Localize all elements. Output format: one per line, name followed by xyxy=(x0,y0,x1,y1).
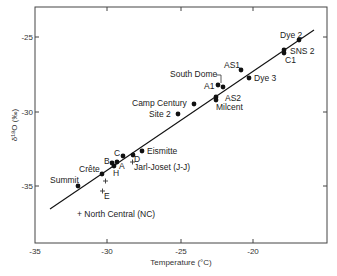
y-tick-label: -35 xyxy=(21,182,33,191)
x-ticks xyxy=(107,7,253,243)
point-label-crete: Crête xyxy=(79,164,100,174)
x-tick-label: -20 xyxy=(247,247,259,256)
point-label-jarl-joset: Jarl-Joset (J-J) xyxy=(134,162,190,172)
point-label-h: H xyxy=(113,168,119,178)
point-label-b: B xyxy=(104,156,110,166)
point-label-a1: A1 xyxy=(204,81,215,91)
point-label-south-dome: South Dome xyxy=(170,69,218,79)
point-label-north-central: + North Central (NC) xyxy=(77,209,155,219)
point-label-milcent: Milcent xyxy=(216,102,244,112)
point-label-as1: AS1 xyxy=(224,60,240,70)
y-axis-title: δ¹⁸O (‰) xyxy=(10,109,19,142)
x-tick-label: -25 xyxy=(175,247,187,256)
point-label-dye3: Dye 3 xyxy=(254,73,276,83)
regression-line xyxy=(50,30,314,209)
point-label-a: A xyxy=(119,161,125,171)
point-label-e: E xyxy=(104,191,110,201)
y-tick-label: -30 xyxy=(21,108,33,117)
point-label-summit: Summit xyxy=(50,175,79,185)
point-label-c: C xyxy=(114,148,120,158)
point-label-eismitte: Eismitte xyxy=(147,146,178,156)
x-tick-label: -35 xyxy=(29,247,41,256)
point-label-c1: C1 xyxy=(285,55,296,65)
x-axis-title: Temperature (°C) xyxy=(150,258,212,267)
chart-figure: -35 -30 -25 -20 -25 -30 -35 Temperature … xyxy=(0,0,337,276)
scatter-plot: -35 -30 -25 -20 -25 -30 -35 Temperature … xyxy=(0,0,337,276)
point-label-dye2: Dye 2 xyxy=(280,30,302,40)
y-tick-label: -25 xyxy=(21,33,33,42)
point-label-camp-century: Camp Century xyxy=(132,98,188,108)
point-label-site2: Site 2 xyxy=(149,109,171,119)
plot-frame xyxy=(35,7,327,243)
x-tick-label: -30 xyxy=(101,247,113,256)
